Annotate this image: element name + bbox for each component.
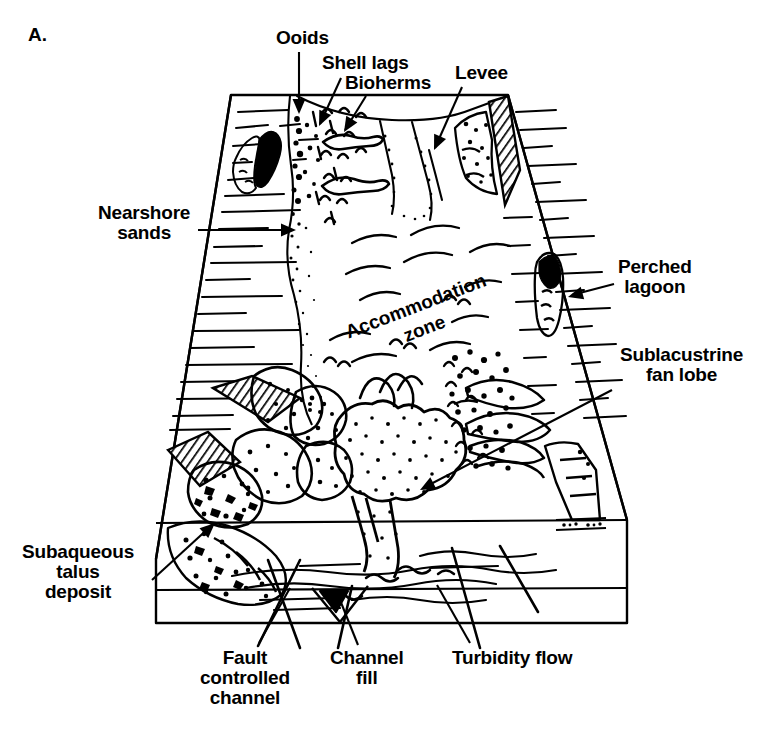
annotation-label-bioherms: Bioherms [345, 73, 431, 93]
annotation-label-line: lagoon [618, 277, 692, 297]
annotation-label-line: Ooids [276, 28, 329, 48]
annotation-label-line: talus [22, 562, 134, 582]
bottom-panel-wavy-beds [330, 567, 454, 600]
arrowhead-perched-lagoon [568, 287, 584, 300]
annotation-label-line: Sublacustrine [620, 345, 743, 365]
annotation-label-line: Fault [200, 648, 290, 668]
annotation-label-sublacustrine-fan-lobe: Sublacustrinefan lobe [620, 345, 743, 385]
annotation-label-line: deposit [22, 582, 134, 602]
bioherm-symbols [313, 108, 366, 224]
leader-line-fault-controlled-channel [259, 588, 290, 643]
right-shelf-bedding [504, 110, 626, 418]
left-shelf-lagoon-pod [255, 132, 282, 188]
arrowhead-sublacustrine-fan-lobe [420, 477, 436, 490]
annotation-label-perched-lagoon: Perchedlagoon [618, 257, 692, 297]
annotation-label-turbidity-flow: Turbidity flow [452, 648, 572, 668]
annotation-label-line: channel [200, 688, 290, 708]
inset-labels: Accommodationzone [342, 269, 497, 364]
leader-line-sublacustrine-fan-lobe [425, 390, 612, 487]
right-slump-blocks [454, 380, 544, 408]
annotation-label-line: fill [330, 668, 404, 688]
talus-apron-stipple [184, 532, 269, 599]
ooid-belt-boundary [287, 96, 312, 425]
annotation-label-channel-fill: Channelfill [330, 648, 404, 688]
annotation-label-levee: Levee [455, 63, 508, 83]
inset-label-accommodation-zone: Accommodationzone [342, 269, 497, 364]
annotation-label-line: sands [98, 223, 190, 243]
annotation-label-line: fan lobe [620, 365, 743, 385]
figure-container: A. [0, 0, 765, 731]
annotation-label-line: Bioherms [345, 73, 431, 93]
fault-scarp-hatched-left-lower [168, 432, 240, 486]
annotation-label-line: Perched [618, 257, 692, 277]
right-shore-wedge [455, 112, 497, 194]
annotation-label-nearshore-sands: Nearshoresands [98, 203, 190, 243]
right-center-clast-field [449, 349, 514, 470]
levee-stipple [384, 135, 433, 221]
right-lower-fault-wedge [545, 442, 600, 520]
annotation-label-subaqueous-talus-deposit: Subaqueoustalusdeposit [22, 542, 134, 602]
perched-lagoon-fill [539, 256, 561, 289]
arrowhead-bioherms [344, 116, 357, 132]
annotation-label-line: Nearshore [98, 203, 190, 223]
annotation-label-fault-controlled-channel: Faultcontrolledchannel [200, 648, 290, 708]
basal-breccia-dots [562, 522, 602, 527]
annotation-label-line: Channel [330, 648, 404, 668]
annotation-label-line: Levee [455, 63, 508, 83]
annotation-label-line: Subaqueous [22, 542, 134, 562]
annotation-label-line: Turbidity flow [452, 648, 572, 668]
arrowhead-ooids [293, 99, 306, 114]
annotation-label-shell-lags: Shell lags [322, 53, 409, 73]
annotation-label-line: Shell lags [322, 53, 409, 73]
shell-lag-blobs [322, 135, 389, 194]
annotation-label-ooids: Ooids [276, 28, 329, 48]
annotation-label-line: controlled [200, 668, 290, 688]
